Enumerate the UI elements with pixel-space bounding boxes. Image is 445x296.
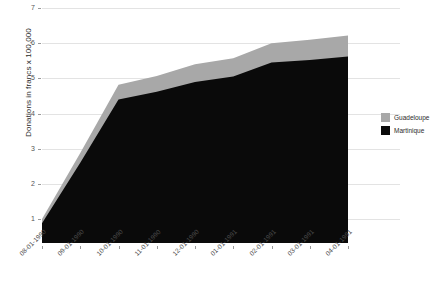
plot-area — [42, 8, 348, 243]
legend-swatch — [381, 113, 390, 122]
chart-canvas: Donations in francs x 100,000 1234567 08… — [0, 0, 445, 296]
x-tick-mark — [80, 246, 81, 249]
legend-item[interactable]: Martinique — [381, 126, 429, 135]
y-tick-mark — [38, 149, 41, 150]
legend-label: Martinique — [394, 127, 424, 134]
chart-legend: GuadeloupeMartinique — [381, 113, 429, 139]
y-tick-label: 3 — [17, 145, 35, 152]
x-tick-mark — [157, 246, 158, 249]
y-tick-mark — [38, 219, 41, 220]
x-tick-mark — [119, 246, 120, 249]
y-tick-label: 5 — [17, 74, 35, 81]
legend-label: Guadeloupe — [394, 114, 429, 121]
x-tick-mark — [348, 246, 349, 249]
y-tick-label: 6 — [17, 39, 35, 46]
y-tick-label: 2 — [17, 180, 35, 187]
legend-swatch — [381, 126, 390, 135]
x-tick-mark — [195, 246, 196, 249]
y-tick-mark — [38, 8, 41, 9]
y-tick-label: 4 — [17, 110, 35, 117]
stacked-area-series — [42, 8, 348, 243]
y-tick-mark — [38, 78, 41, 79]
y-axis-title: Donations in francs x 100,000 — [24, 0, 33, 168]
legend-item[interactable]: Guadeloupe — [381, 113, 429, 122]
y-tick-label: 7 — [17, 4, 35, 11]
x-tick-mark — [310, 246, 311, 249]
x-tick-mark — [233, 246, 234, 249]
y-tick-mark — [38, 114, 41, 115]
y-tick-label: 1 — [17, 215, 35, 222]
x-tick-mark — [42, 246, 43, 249]
y-tick-mark — [38, 184, 41, 185]
y-tick-mark — [38, 43, 41, 44]
x-tick-mark — [272, 246, 273, 249]
